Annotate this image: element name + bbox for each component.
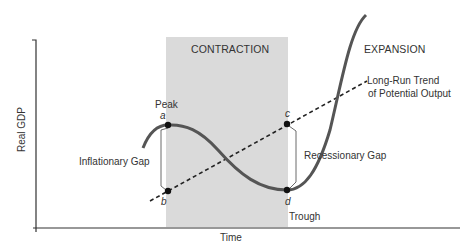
recessionary-gap-label: Recessionary Gap [304,150,386,162]
business-cycle-diagram [0,0,466,250]
point-a-marker [165,122,171,128]
point-b-label: b [161,196,167,208]
expansion-label: EXPANSION [364,43,425,55]
y-axis-label: Real GDP [16,107,28,152]
x-axis-label: Time [220,232,242,244]
point-c-label: c [285,108,290,120]
trend-label-line1: Long-Run Trend [367,75,439,87]
y-axis [32,40,36,232]
point-a-label: a [160,110,166,122]
point-b-marker [165,188,171,194]
peak-label: Peak [155,99,178,111]
point-c-marker [284,121,290,127]
contraction-shaded-region [166,37,288,227]
contraction-label: CONTRACTION [191,43,269,55]
trend-label-line2: of Potential Output [368,88,451,100]
point-d-label: d [285,196,291,208]
recessionary-gap-bracket [289,126,296,188]
trough-label: Trough [289,211,320,223]
point-d-marker [284,187,290,193]
inflationary-gap-label: Inflationary Gap [79,156,150,168]
